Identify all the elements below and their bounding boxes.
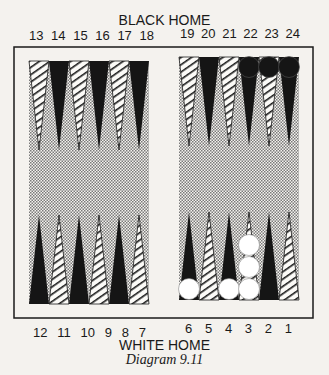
point-number: 4 [225, 321, 232, 336]
point-number: 1 [285, 321, 292, 336]
black-checkers [239, 57, 300, 78]
diagram-caption: Diagram 9.11 [0, 352, 329, 368]
white-checker [239, 257, 260, 278]
bottom-right-point-numbers: 6 5 4 3 2 1 [185, 321, 292, 336]
white-home-label: WHITE HOME [0, 337, 329, 353]
black-checker [279, 57, 300, 78]
point-number: 6 [185, 321, 192, 336]
white-checker [179, 279, 200, 300]
backgammon-board [0, 0, 329, 375]
white-checker [239, 235, 260, 256]
white-checker [239, 279, 260, 300]
point-number: 2 [265, 321, 272, 336]
black-checker [239, 57, 260, 78]
white-checker [219, 279, 240, 300]
point-number: 3 [245, 321, 252, 336]
black-checker [259, 57, 280, 78]
left-board [29, 61, 149, 304]
point-number: 5 [205, 321, 212, 336]
